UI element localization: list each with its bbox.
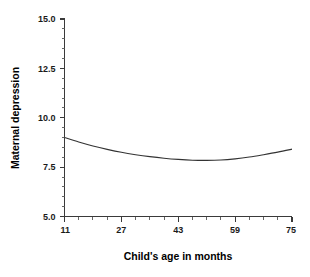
x-tick-label: 27 [116, 225, 126, 235]
y-tick-label: 12.5 [38, 64, 56, 74]
x-tick-label: 11 [61, 225, 71, 235]
y-tick-label: 5.0 [43, 212, 56, 222]
x-tick-label: 75 [286, 225, 296, 235]
y-tick-label: 15.0 [38, 14, 56, 24]
chart-background [0, 0, 310, 277]
chart-container: 5.07.510.012.515.0 1127435975 Child's ag… [0, 0, 310, 277]
y-tick-label: 10.0 [38, 113, 56, 123]
x-tick-label: 43 [173, 225, 183, 235]
y-tick-label: 7.5 [43, 162, 56, 172]
x-tick-label: 59 [230, 225, 240, 235]
y-axis-title: Maternal depression [9, 67, 21, 169]
x-axis-title: Child's age in months [124, 250, 233, 262]
line-chart: 5.07.510.012.515.0 1127435975 Child's ag… [0, 0, 310, 277]
